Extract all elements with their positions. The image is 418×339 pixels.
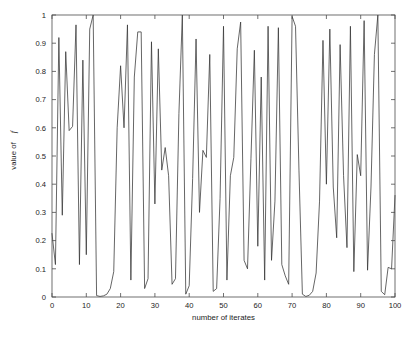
- y-tick-label: 0.2: [35, 236, 46, 245]
- line-chart: 0102030405060708090100 00.10.20.30.40.50…: [0, 0, 418, 339]
- x-tick-label: 20: [116, 301, 124, 310]
- plot-background: [52, 15, 395, 297]
- y-tick-label: 0.4: [35, 180, 46, 189]
- figure-canvas: 0102030405060708090100 00.10.20.30.40.50…: [0, 0, 418, 339]
- x-axis-title: number of iterates: [192, 313, 255, 322]
- x-tick-label: 70: [288, 301, 296, 310]
- y-tick-label: 0.7: [35, 95, 46, 104]
- y-tick-label: 0.9: [35, 39, 46, 48]
- y-tick-label: 1: [42, 11, 46, 20]
- y-axis-title-symbol: f: [9, 129, 18, 133]
- x-tick-label: 90: [356, 301, 364, 310]
- x-tick-label: 50: [219, 301, 227, 310]
- y-axis-tick-labels: 00.10.20.30.40.50.60.70.80.91: [35, 11, 46, 302]
- x-tick-label: 100: [389, 301, 402, 310]
- y-axis-title-prefix: value of: [9, 142, 18, 170]
- y-tick-label: 0.3: [35, 208, 46, 217]
- x-tick-label: 60: [254, 301, 262, 310]
- y-tick-label: 0.5: [35, 152, 46, 161]
- x-tick-label: 40: [185, 301, 193, 310]
- y-tick-label: 0: [42, 293, 46, 302]
- x-tick-label: 10: [82, 301, 90, 310]
- y-tick-label: 0.1: [35, 265, 46, 274]
- y-axis-title: value of f: [9, 129, 18, 170]
- y-tick-label: 0.6: [35, 124, 46, 133]
- x-tick-label: 0: [50, 301, 54, 310]
- x-axis-tick-labels: 0102030405060708090100: [50, 301, 401, 310]
- y-tick-label: 0.8: [35, 67, 46, 76]
- x-tick-label: 30: [151, 301, 159, 310]
- x-tick-label: 80: [322, 301, 330, 310]
